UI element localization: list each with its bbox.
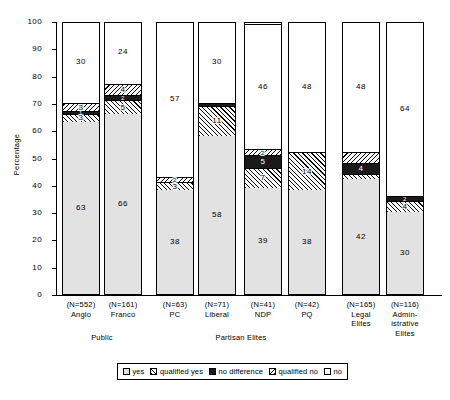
segment-value-label: 66 (117, 200, 129, 208)
bar-segment-nodiff: 4 (343, 163, 379, 174)
x-axis-category-name: istrative (377, 319, 433, 329)
y-tick-label: 60 (8, 127, 42, 135)
bar-segment-no: 48 (289, 22, 325, 152)
y-tick-label: 100 (8, 18, 42, 26)
bar-legal-elites[interactable]: 42448 (342, 22, 380, 295)
legend-swatch-yes-icon (123, 368, 130, 375)
bar-segment-no: 24 (105, 22, 141, 84)
legend-swatch-qno-icon (269, 368, 276, 375)
y-tick-label: 10 (8, 264, 42, 272)
bar-segment-qyes: 3 (157, 182, 193, 190)
bar-segment-no: 57 (157, 22, 193, 177)
bar-segment-no: 64 (387, 22, 423, 196)
x-axis-category-name: Admin- (377, 310, 433, 320)
stacked-bar-chart: Percentage 0102030405060708090100 633133… (0, 0, 450, 400)
bar-segment-no: 30 (63, 22, 99, 103)
segment-value-label: 2 (260, 150, 266, 156)
segment-value-label: 30 (399, 249, 411, 257)
bar-liberal[interactable]: 581130 (198, 22, 236, 295)
x-axis-sample-size: (N=116) (377, 300, 433, 310)
y-tick-label: 30 (8, 209, 42, 217)
segment-value-label: 4 (119, 86, 126, 94)
bar-segment-nodiff: 2 (387, 196, 423, 201)
bar-admin--istrative-elites[interactable]: 304264 (386, 22, 424, 295)
bar-segment-no: 30 (199, 22, 235, 103)
segment-value-label: 2 (172, 177, 178, 183)
bar-segment-qyes: 5 (105, 100, 141, 114)
segment-value-label: 58 (211, 211, 223, 219)
segment-value-label: 63 (75, 204, 87, 212)
bar-pc[interactable]: 383257 (156, 22, 194, 295)
bar-segment-qyes (343, 174, 379, 179)
segment-value-label: 38 (301, 238, 313, 246)
y-tick-label: 70 (8, 100, 42, 108)
bar-segment-qno (343, 152, 379, 163)
legend-swatch-nodiff-icon (209, 368, 216, 375)
segment-value-label: 3 (77, 104, 84, 112)
legend-swatch-no-icon (324, 368, 331, 375)
legend-item-no[interactable]: no (324, 367, 342, 376)
x-axis-line (56, 295, 442, 296)
bar-segment-nodiff: 1 (63, 111, 99, 114)
x-axis-label-pq: (N=42)PQ (279, 300, 335, 319)
segment-value-label: 24 (117, 48, 129, 56)
y-tick-label: 0 (8, 291, 42, 299)
legend-swatch-qyes-icon (150, 368, 157, 375)
bar-segment-nodiff (199, 103, 235, 106)
x-axis-sample-size: (N=161) (95, 300, 151, 310)
bar-ndp[interactable]: 3975246 (244, 22, 282, 295)
legend-label: yes (133, 367, 145, 376)
bar-segment-no: 46 (245, 24, 281, 150)
segment-value-label: 64 (399, 105, 411, 113)
y-tick-label: 80 (8, 73, 42, 81)
legend-label: no (334, 367, 343, 376)
bar-segment-yes: 42 (343, 179, 379, 294)
y-tick-label: 50 (8, 155, 42, 163)
x-axis-category-name: Franco (95, 310, 151, 320)
segment-value-label: 30 (75, 58, 87, 66)
segment-value-label: 3 (171, 183, 178, 191)
legend-label: qualified yes (160, 367, 203, 376)
plot-area: 6331330665242438325758113039752463814484… (56, 22, 442, 295)
segment-value-label: 14 (301, 168, 313, 176)
segment-value-label: 57 (169, 95, 181, 103)
bar-segment-yes: 30 (387, 212, 423, 294)
segment-value-label: 30 (211, 58, 223, 66)
bar-segment-qno: 3 (63, 103, 99, 111)
legend-item-qno[interactable]: qualified no (269, 367, 318, 376)
x-axis-label-franco: (N=161)Franco (95, 300, 151, 319)
bar-segment-yes: 38 (157, 190, 193, 294)
segment-value-label: 38 (169, 238, 181, 246)
segment-value-label: 4 (357, 165, 364, 173)
bar-anglo[interactable]: 6331330 (62, 22, 100, 295)
y-tick-label: 90 (8, 45, 42, 53)
bar-segment-yes: 63 (63, 122, 99, 294)
bar-segment-yes: 58 (199, 136, 235, 294)
segment-value-label: 2 (120, 95, 126, 101)
bar-segment-nodiff: 2 (105, 95, 141, 100)
legend-item-qyes[interactable]: qualified yes (150, 367, 203, 376)
bar-segment-qyes: 7 (245, 168, 281, 187)
segment-value-label: 5 (259, 158, 266, 166)
legend-item-yes[interactable]: yes (123, 367, 144, 376)
x-axis-sample-size: (N=42) (279, 300, 335, 310)
bar-pq[interactable]: 381448 (288, 22, 326, 295)
bar-segment-qno: 2 (157, 177, 193, 182)
segment-value-label: 39 (257, 237, 269, 245)
legend-item-nodiff[interactable]: no difference (209, 367, 263, 376)
segment-value-label: 48 (355, 83, 367, 91)
y-tick-label: 40 (8, 182, 42, 190)
x-axis-label-admin--istrative-elites: (N=116)Admin-istrativeElites (377, 300, 433, 338)
bar-franco[interactable]: 6652424 (104, 22, 142, 295)
legend-label: qualified no (279, 367, 319, 376)
segment-value-label: 7 (259, 174, 266, 182)
bar-segment-no: 48 (343, 22, 379, 152)
x-axis-category-name: PQ (279, 310, 335, 320)
segment-value-label: 2 (402, 196, 408, 202)
bar-segment-qno: 4 (105, 84, 141, 95)
segment-value-label: 11 (211, 117, 223, 125)
y-tick-label: 20 (8, 236, 42, 244)
y-axis-line (56, 22, 57, 295)
bar-segment-qyes: 4 (387, 201, 423, 212)
bar-segment-qyes: 11 (199, 106, 235, 136)
